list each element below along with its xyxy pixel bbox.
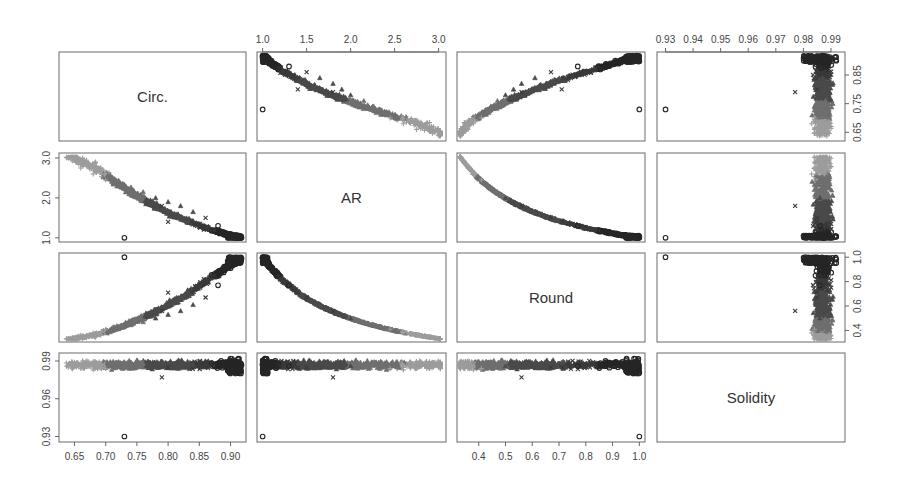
diagonal-panel-round: Round xyxy=(457,253,645,342)
scatter-panel-0-2 xyxy=(457,52,645,141)
tick-label: 0.6 xyxy=(525,451,539,462)
tick-label: 0.8 xyxy=(852,274,863,288)
tick-label: 0.99 xyxy=(41,351,52,371)
scatter-panel-1-0 xyxy=(59,153,246,242)
scatter-panel-3-0 xyxy=(59,353,246,442)
tick-label: 0.4 xyxy=(852,323,863,337)
tick-label: 2.0 xyxy=(41,191,52,205)
tick-label: 0.4 xyxy=(472,451,486,462)
scatter-panel-1-2 xyxy=(457,153,645,242)
tick-label: 0.6 xyxy=(852,299,863,313)
tick-label: 3.0 xyxy=(432,34,446,45)
tick-label: 0.5 xyxy=(499,451,513,462)
tick-label: 1.5 xyxy=(300,34,314,45)
tick-label: 0.95 xyxy=(711,34,731,45)
scatter-panel-3-2 xyxy=(457,353,645,442)
scatter-panel-2-0 xyxy=(59,253,246,342)
scatter-panel-3-1 xyxy=(257,353,446,442)
tick-label: 0.94 xyxy=(683,34,703,45)
tick-label: 1.0 xyxy=(852,250,863,264)
tick-label: 0.96 xyxy=(41,389,52,409)
tick-label: 0.93 xyxy=(41,426,52,446)
variable-label: Round xyxy=(529,289,573,306)
tick-label: 0.93 xyxy=(656,34,676,45)
tick-label: 1.0 xyxy=(632,451,646,462)
diagonal-panel-circ: Circ. xyxy=(59,52,246,141)
scatter-panel-1-3 xyxy=(657,153,845,242)
tick-label: 0.75 xyxy=(852,93,863,113)
tick-label: 0.65 xyxy=(852,122,863,142)
tick-label: 0.96 xyxy=(739,34,759,45)
tick-label: 0.65 xyxy=(65,451,85,462)
tick-label: 0.90 xyxy=(221,451,241,462)
tick-label: 0.7 xyxy=(552,451,566,462)
tick-label: 0.97 xyxy=(766,34,786,45)
tick-label: 1.0 xyxy=(41,230,52,244)
tick-label: 0.99 xyxy=(821,34,841,45)
tick-label: 1.0 xyxy=(256,34,270,45)
tick-label: 0.80 xyxy=(158,451,178,462)
scatter-panel-2-3 xyxy=(657,253,845,342)
variable-label: Circ. xyxy=(137,88,168,105)
tick-label: 3.0 xyxy=(41,151,52,165)
tick-label: 0.85 xyxy=(190,451,210,462)
tick-label: 0.98 xyxy=(794,34,814,45)
tick-label: 0.85 xyxy=(852,65,863,85)
tick-label: 0.8 xyxy=(579,451,593,462)
tick-label: 0.75 xyxy=(127,451,147,462)
diagonal-panel-solidity: Solidity xyxy=(657,353,845,442)
tick-label: 0.9 xyxy=(606,451,620,462)
scatter-panel-0-3 xyxy=(657,52,845,141)
scatter-panel-0-1 xyxy=(257,52,446,141)
variable-label: AR xyxy=(341,189,362,206)
scatter-panel-2-1 xyxy=(257,253,446,342)
tick-label: 2.5 xyxy=(388,34,402,45)
diagonal-panel-ar: AR xyxy=(257,153,446,242)
tick-label: 0.70 xyxy=(96,451,116,462)
panels: Circ.ARRoundSolidity xyxy=(59,52,845,442)
variable-label: Solidity xyxy=(727,389,776,406)
tick-label: 2.0 xyxy=(344,34,358,45)
scatter-matrix: Circ.ARRoundSolidity 1.01.52.02.53.00.93… xyxy=(0,0,904,491)
